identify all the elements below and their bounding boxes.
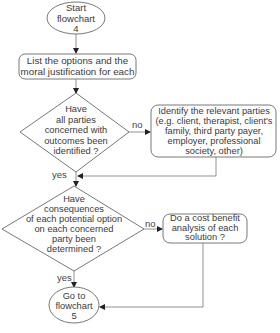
label-yes-1: yes — [52, 169, 67, 180]
list-options-text: List the options and the moral justifica… — [19, 56, 136, 77]
start-node-text: Start flowchart 4 — [47, 3, 105, 35]
cost-benefit-text: Do a cost benefit analysis of each solut… — [164, 214, 246, 243]
flowchart-canvas — [0, 0, 280, 333]
label-no-2: no — [145, 218, 156, 229]
label-no-1: no — [132, 119, 143, 130]
end-node-text: Go to flowchart 5 — [49, 291, 99, 321]
decision-consequences-text: Have consequences of each potential opti… — [18, 194, 130, 254]
identify-parties-text: Identify the relevant parties (e.g. clie… — [152, 106, 276, 156]
decision-parties-text: Have all parties concerned with outcomes… — [26, 104, 126, 157]
connector-identify-return — [78, 157, 216, 176]
label-yes-2: yes — [57, 272, 72, 283]
